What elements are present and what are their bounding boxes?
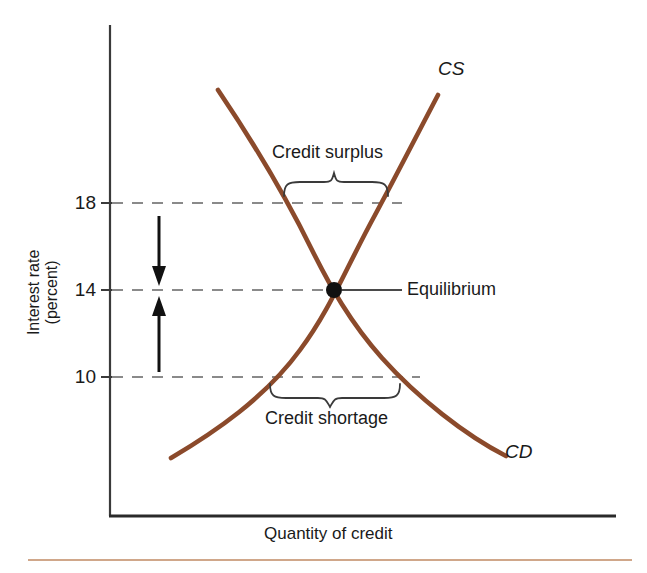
y-axis-title: Interest rate (percent) (25, 207, 62, 377)
credit-market-plot (0, 0, 647, 573)
y-axis-title-line1: Interest rate (25, 207, 43, 377)
y-tick-label-18: 18 (60, 192, 96, 214)
credit-shortage-brace (270, 384, 400, 407)
credit-surplus-brace (284, 173, 388, 196)
credit-market-figure: 18 14 10 Interest rate (percent) Quantit… (0, 0, 647, 573)
rate-rises-arrow (152, 296, 166, 372)
credit-surplus-label: Credit surplus (272, 142, 383, 163)
y-tick-label-14: 14 (60, 279, 96, 301)
rate-falls-arrow (152, 216, 166, 286)
y-axis-title-line2: (percent) (43, 207, 61, 377)
cd-curve-label: CD (505, 441, 532, 463)
credit-shortage-label: Credit shortage (265, 408, 388, 429)
cs-curve-label: CS (438, 58, 464, 80)
equilibrium-point (326, 282, 342, 298)
equilibrium-label: Equilibrium (407, 279, 496, 300)
y-tick-label-10: 10 (60, 366, 96, 388)
x-axis-title: Quantity of credit (264, 524, 393, 544)
